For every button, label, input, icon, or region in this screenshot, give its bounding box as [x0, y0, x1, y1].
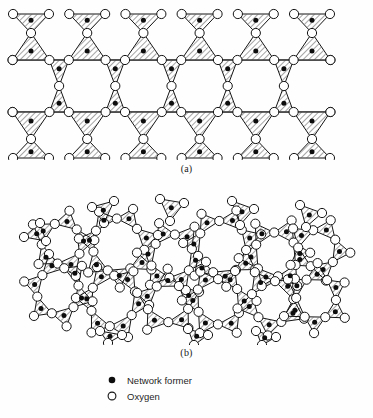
oxygen-node: [121, 153, 130, 160]
oxygen-node: [45, 107, 54, 116]
oxygen-node: [317, 208, 326, 217]
oxygen-node: [152, 282, 161, 291]
oxygen-node: [44, 153, 53, 160]
network-former-node: [248, 255, 253, 260]
oxygen-node: [120, 107, 129, 116]
oxygen-node: [328, 257, 337, 266]
panel-crystalline-network: [0, 0, 373, 160]
network-former-node: [186, 293, 191, 298]
oxygen-node: [194, 307, 203, 316]
network-former-node: [85, 149, 90, 154]
oxygen-node: [163, 264, 172, 273]
oxygen-node: [213, 320, 222, 329]
oxygen-node: [230, 266, 239, 275]
network-former-node: [321, 267, 326, 272]
network-former-node: [197, 18, 202, 23]
network-former-node: [281, 66, 286, 71]
network-former-node: [240, 209, 245, 214]
oxygen-nodes: [8, 9, 335, 160]
oxygen-node: [183, 304, 192, 313]
network-former-node: [169, 101, 174, 106]
network-former-node: [136, 301, 141, 306]
network-former-node: [29, 119, 34, 124]
oxygen-node: [289, 55, 298, 64]
oxygen-node: [300, 312, 309, 321]
oxygen-node: [103, 338, 112, 345]
oxygen-node: [197, 209, 206, 218]
network-former-node: [85, 119, 90, 124]
network-former-node: [299, 233, 304, 238]
network-former-node: [267, 322, 272, 327]
oxygen-node: [326, 216, 335, 225]
oxygen-node: [306, 248, 315, 257]
network-former-node: [125, 277, 130, 282]
network-former-node: [253, 119, 258, 124]
oxygen-node: [72, 225, 81, 234]
oxygen-node: [164, 318, 173, 327]
network-former-node: [179, 317, 184, 322]
oxygen-node: [254, 313, 263, 322]
oxygen-node: [295, 200, 304, 209]
oxygen-node: [242, 245, 251, 254]
oxygen-node: [8, 9, 17, 18]
network-former-node: [29, 149, 34, 154]
panel-amorphous-network: [0, 183, 373, 345]
oxygen-node: [121, 9, 130, 18]
network-former-node: [99, 274, 104, 279]
oxygen-node: [331, 295, 340, 304]
oxygen-node: [213, 55, 222, 64]
oxygen-node: [170, 230, 179, 239]
oxygen-node: [269, 153, 278, 160]
panel-a-label: (a): [0, 163, 373, 174]
oxygen-node: [322, 275, 331, 284]
network-former-node: [263, 274, 268, 279]
oxygen-node: [233, 304, 242, 313]
oxygen-node: [64, 55, 73, 64]
oxygen-node: [132, 248, 141, 257]
network-former-node: [146, 252, 151, 257]
oxygen-node: [8, 55, 17, 64]
network-former-node: [43, 255, 48, 260]
network-former-node: [197, 149, 202, 154]
legend-label-network-former: Network former: [127, 375, 192, 386]
network-former-node: [49, 263, 54, 268]
network-former-node: [203, 278, 208, 283]
network-former-node: [29, 18, 34, 23]
network-former-node: [253, 149, 258, 154]
panel-b-label: (b): [0, 347, 373, 358]
network-former-node: [57, 66, 62, 71]
oxygen-node: [201, 257, 210, 266]
oxygen-node: [233, 9, 242, 18]
network-former-node: [145, 294, 150, 299]
oxygen-node: [89, 247, 98, 256]
oxygen-node: [143, 305, 152, 314]
network-former-node: [253, 49, 258, 54]
network-former-node: [310, 49, 315, 54]
oxygen-node: [270, 55, 279, 64]
network-former-node: [292, 308, 297, 313]
network-former-node: [229, 321, 234, 326]
network-former-node: [81, 239, 86, 244]
crystalline-network-diagram: [0, 0, 373, 160]
oxygen-node: [132, 224, 141, 233]
oxygen-node: [177, 153, 186, 160]
network-former-node: [61, 313, 66, 318]
oxygen-node: [95, 326, 104, 335]
oxygen-node: [257, 340, 266, 345]
network-former-node: [307, 213, 312, 218]
network-former-node: [324, 228, 329, 233]
oxygen-node: [193, 285, 202, 294]
oxygen-node: [83, 28, 92, 37]
network-former-node: [294, 283, 299, 288]
oxygen-node: [101, 107, 110, 116]
oxygen-node: [286, 260, 295, 269]
open-circle-icon: [104, 388, 120, 404]
oxygen-node: [289, 9, 298, 18]
network-former-node: [113, 66, 118, 71]
oxygen-node: [35, 218, 44, 227]
network-former-node: [225, 66, 230, 71]
oxygen-node: [139, 28, 148, 37]
oxygen-node: [233, 107, 242, 116]
oxygen-node: [65, 153, 74, 160]
network-former-node: [225, 101, 230, 106]
